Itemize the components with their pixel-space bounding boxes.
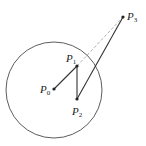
label-p1: P1 bbox=[65, 52, 77, 66]
segment-p0-p1 bbox=[54, 66, 77, 89]
label-p0: P0 bbox=[39, 83, 51, 97]
point-p2 bbox=[75, 97, 78, 100]
geometry-diagram: P0 P1 P2 P3 bbox=[0, 0, 146, 146]
label-p3: P3 bbox=[126, 10, 138, 24]
label-p2: P2 bbox=[71, 105, 83, 119]
point-p0 bbox=[52, 87, 55, 90]
point-p3 bbox=[121, 15, 124, 18]
segment-p2-p3 bbox=[77, 17, 123, 99]
